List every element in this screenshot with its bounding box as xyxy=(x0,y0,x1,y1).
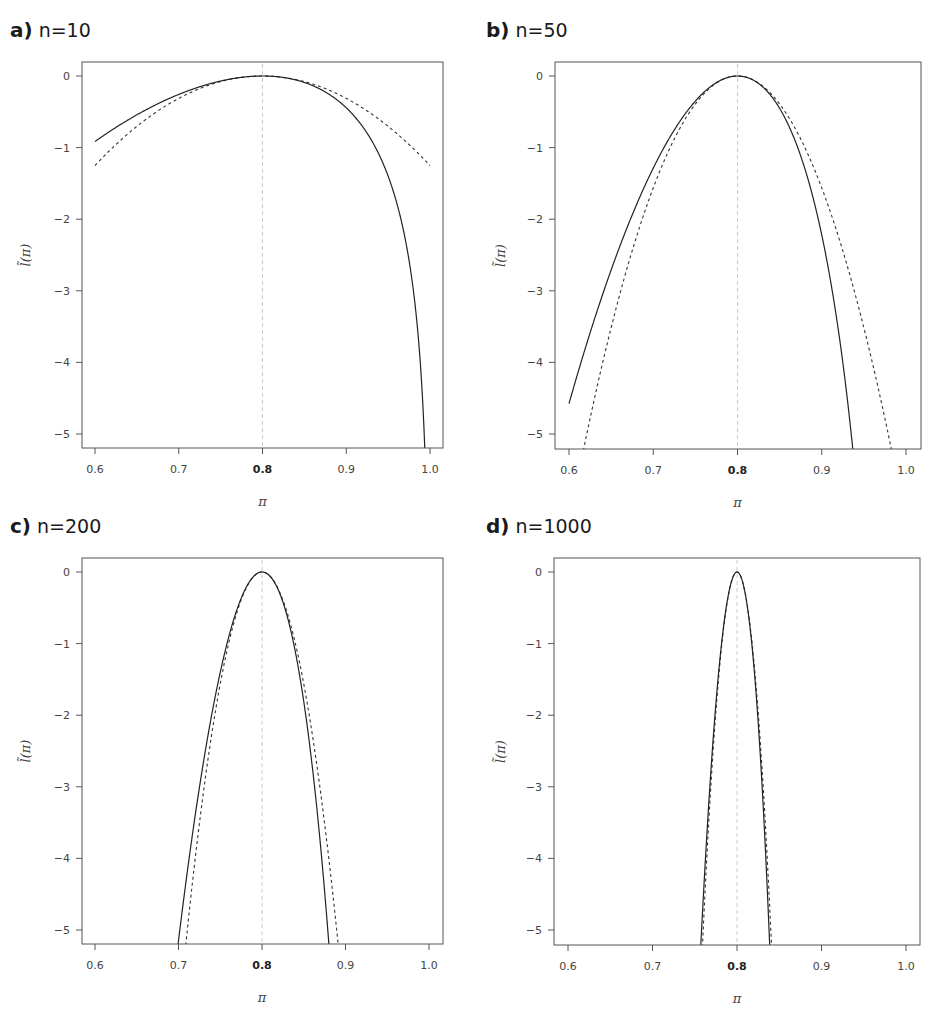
y-tick-label: −3 xyxy=(526,781,542,794)
log-likelihood-curve xyxy=(95,572,429,951)
y-tick-label: −2 xyxy=(527,213,543,226)
y-axis-label: l̃(π) xyxy=(17,244,33,267)
x-tick-label: 0.7 xyxy=(170,463,188,476)
y-tick-label: −2 xyxy=(54,213,70,226)
y-tick-label: 0 xyxy=(536,70,543,83)
x-axis-label: π xyxy=(732,495,742,510)
y-tick-label: −4 xyxy=(54,852,70,865)
y-axis-label: l̃(π) xyxy=(492,740,508,763)
y-tick-label: −1 xyxy=(527,142,543,155)
y-tick-label: −1 xyxy=(526,638,542,651)
figure-canvas: 0.60.70.80.91.00−1−2−3−4−5πl̃(π)0.60.70.… xyxy=(0,0,936,1014)
x-tick-label: 0.6 xyxy=(86,959,104,972)
x-tick-label: 0.6 xyxy=(560,464,578,477)
y-tick-label: −5 xyxy=(54,428,70,441)
log-likelihood-curve xyxy=(95,76,430,455)
x-tick-label: 1.0 xyxy=(897,464,915,477)
x-tick-label: 0.9 xyxy=(337,959,355,972)
x-tick-label: 0.9 xyxy=(813,464,831,477)
y-axis-label: l̃(π) xyxy=(492,244,508,267)
y-tick-label: 0 xyxy=(535,566,542,579)
x-tick-label: 0.6 xyxy=(559,960,577,973)
quadratic-approx-curve xyxy=(568,572,906,951)
y-tick-label: −1 xyxy=(54,142,70,155)
x-tick-label: 0.7 xyxy=(170,959,188,972)
log-likelihood-curve xyxy=(569,76,906,455)
x-tick-label: 1.0 xyxy=(897,960,915,973)
panel-a: 0.60.70.80.91.00−1−2−3−4−5πl̃(π) xyxy=(17,62,443,509)
quadratic-approx-curve xyxy=(95,572,429,951)
x-tick-label: 0.8 xyxy=(253,463,273,476)
x-tick-label: 0.6 xyxy=(86,463,104,476)
y-tick-label: −4 xyxy=(527,356,543,369)
x-tick-label: 0.9 xyxy=(338,463,356,476)
log-likelihood-curve xyxy=(568,572,906,951)
x-axis-label: π xyxy=(257,990,267,1005)
panel-b: 0.60.70.80.91.00−1−2−3−4−5πl̃(π) xyxy=(492,62,921,510)
y-tick-label: −1 xyxy=(54,638,70,651)
x-tick-label: 1.0 xyxy=(420,959,438,972)
y-tick-label: −5 xyxy=(526,924,542,937)
y-tick-label: −2 xyxy=(54,709,70,722)
x-tick-label: 0.8 xyxy=(728,464,748,477)
panel-d: 0.60.70.80.91.00−1−2−3−4−5πl̃(π) xyxy=(492,558,920,1006)
x-axis-label: π xyxy=(257,494,267,509)
x-tick-label: 0.8 xyxy=(727,960,747,973)
x-tick-label: 0.7 xyxy=(644,960,662,973)
y-tick-label: −3 xyxy=(54,781,70,794)
x-tick-label: 1.0 xyxy=(421,463,439,476)
x-tick-label: 0.9 xyxy=(813,960,831,973)
panel-c: 0.60.70.80.91.00−1−2−3−4−5πl̃(π) xyxy=(17,558,443,1005)
y-tick-label: 0 xyxy=(63,70,70,83)
y-tick-label: −5 xyxy=(54,924,70,937)
x-tick-label: 0.8 xyxy=(252,959,272,972)
y-tick-label: −3 xyxy=(54,285,70,298)
y-tick-label: −4 xyxy=(526,852,542,865)
y-tick-label: −3 xyxy=(527,285,543,298)
x-axis-label: π xyxy=(732,991,742,1006)
y-tick-label: 0 xyxy=(63,566,70,579)
x-tick-label: 0.7 xyxy=(645,464,663,477)
quadratic-approx-curve xyxy=(569,76,906,455)
y-tick-label: −2 xyxy=(526,709,542,722)
y-tick-label: −4 xyxy=(54,356,70,369)
y-tick-label: −5 xyxy=(527,428,543,441)
y-axis-label: l̃(π) xyxy=(17,740,33,763)
